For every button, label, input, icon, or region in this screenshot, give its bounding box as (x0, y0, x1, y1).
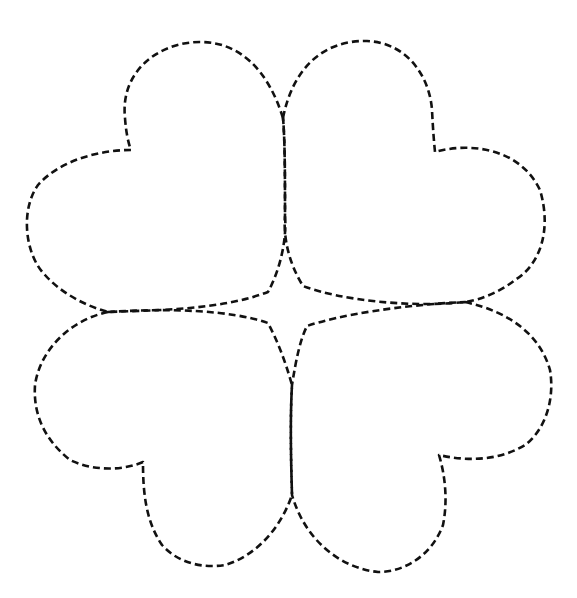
clover-figure (0, 0, 577, 598)
bottom-left-leaf (35, 310, 292, 566)
top-right-leaf (283, 41, 545, 304)
bottom-right-leaf (291, 302, 551, 572)
top-left-leaf (27, 42, 285, 312)
